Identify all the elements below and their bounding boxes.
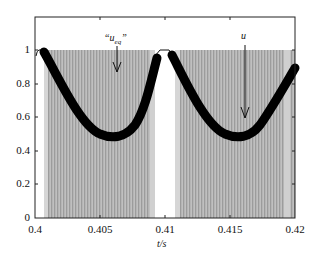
x-tick-label: 0.405: [80, 224, 120, 235]
u-annotation: u: [241, 30, 246, 41]
y-tick-label: 1: [6, 44, 30, 55]
x-tick-label: 0.4: [15, 224, 55, 235]
x-axis-title: t/s: [157, 238, 166, 249]
y-tick-label: 0.4: [6, 145, 30, 156]
x-tick-label: 0.42: [275, 224, 314, 235]
x-tick-label: 0.415: [210, 224, 250, 235]
y-tick-label: 0: [6, 212, 30, 223]
y-tick-label: 0.2: [6, 178, 30, 189]
y-tick-label: 0.8: [6, 78, 30, 89]
y-tick-label: 0.6: [6, 111, 30, 122]
x-tick-label: 0.41: [145, 224, 185, 235]
ueq-annotation: “ueq”: [104, 32, 127, 46]
